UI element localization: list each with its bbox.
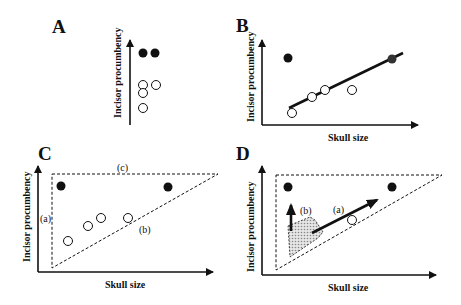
y-axis-label-d: Incisor procumbency (245, 182, 256, 272)
open-point (97, 214, 106, 223)
annotation-c-c: (c) (117, 162, 128, 174)
open-point (288, 109, 297, 118)
open-point (308, 93, 317, 102)
filled-point (388, 183, 397, 192)
panel-letter-a: A (52, 16, 66, 37)
filled-point (57, 182, 66, 191)
panel-b: B Incisor procumbency Skull size (236, 15, 418, 143)
x-axis-label-d: Skull size (328, 282, 369, 293)
filled-points-d (284, 183, 397, 192)
constraint-triangle-c (52, 174, 218, 268)
open-points-c (64, 214, 133, 246)
x-axis-label-c: Skull size (105, 279, 146, 290)
open-points-d (348, 216, 357, 225)
figure-canvas: A Incisor procumbency B Incisor procumbe… (0, 0, 461, 305)
filled-points-a (139, 49, 160, 58)
trend-arrow-a-d (312, 200, 377, 233)
shaded-region-d (288, 217, 323, 257)
regression-line-b (289, 53, 403, 108)
y-axis-label-a: Incisor procumbency (112, 28, 123, 118)
panel-a: A Incisor procumbency (52, 16, 161, 125)
open-points-a (139, 81, 161, 113)
annotation-c-a: (a) (40, 213, 51, 225)
filled-point (151, 49, 160, 58)
panel-c: C Incisor procumbency Skull size (c) (a)… (21, 143, 218, 290)
open-point (139, 104, 148, 113)
open-points-b (288, 86, 357, 118)
open-point (348, 216, 357, 225)
y-axis-label-b: Incisor procumbency (245, 32, 256, 122)
annotation-c-b: (b) (139, 224, 151, 236)
x-axis-label-b: Skull size (328, 132, 369, 143)
filled-points-b (284, 54, 397, 64)
panel-letter-c: C (38, 143, 52, 164)
panel-letter-d: D (236, 143, 250, 164)
filled-points-c (57, 182, 173, 192)
open-point (124, 214, 133, 223)
open-point (64, 237, 73, 246)
annotation-d-b: (b) (300, 205, 312, 217)
open-point (152, 81, 161, 90)
filled-point (284, 54, 293, 63)
open-point (348, 86, 357, 95)
filled-point (164, 183, 173, 192)
y-axis-label-c: Incisor procumbency (21, 172, 32, 262)
filled-point (284, 183, 293, 192)
open-point (321, 86, 330, 95)
open-point (139, 89, 148, 98)
panel-d: D Incisor procumbency Skull size (b) (a) (236, 143, 442, 293)
filled-point (388, 55, 397, 64)
filled-point (139, 49, 148, 58)
open-point (84, 222, 93, 231)
annotation-d-a: (a) (333, 204, 344, 216)
